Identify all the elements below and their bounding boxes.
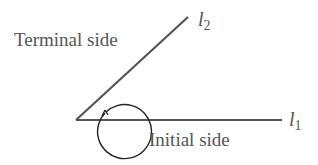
rotation-arc	[98, 105, 152, 159]
terminal-side-label: Terminal side	[14, 29, 118, 50]
initial-side-label: Initial side	[149, 129, 230, 150]
line1-label: l1	[289, 108, 302, 133]
angle-diagram: Terminal side Initial side l2 l1	[0, 0, 318, 165]
line2-label: l2	[198, 8, 211, 33]
